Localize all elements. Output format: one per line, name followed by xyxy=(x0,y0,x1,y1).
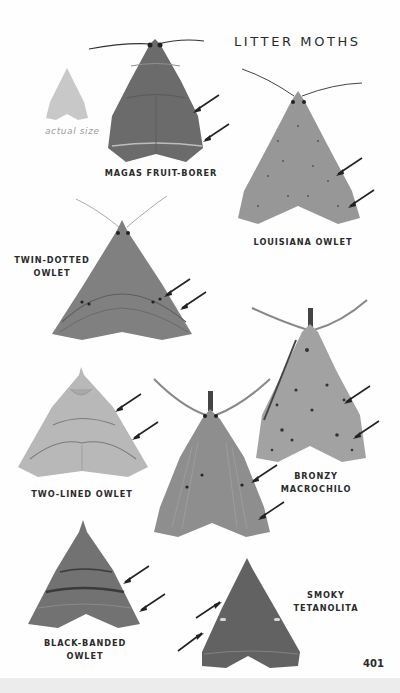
arrow-icon xyxy=(178,290,208,312)
species-label: MAGAS FRUIT-BORER xyxy=(103,167,219,180)
arrow-icon xyxy=(249,463,279,485)
actual-size-silhouette xyxy=(44,66,90,122)
arrow-icon xyxy=(121,564,151,586)
page-number: 401 xyxy=(363,658,384,669)
moth-macrochilo-center xyxy=(152,377,272,539)
arrow-icon xyxy=(194,600,224,622)
field-guide-page: LITTER MOTHS actual size MAGAS FRUIT-BOR… xyxy=(0,0,400,693)
arrow-icon xyxy=(137,592,167,614)
species-label: BLACK-BANDED OWLET xyxy=(40,637,130,663)
species-label: BRONZY MACROCHILO xyxy=(276,470,356,496)
arrow-icon xyxy=(113,392,143,414)
arrow-icon xyxy=(256,500,286,522)
arrow-icon xyxy=(342,384,372,406)
species-label: SMOKY TETANOLITA xyxy=(288,589,364,615)
arrow-icon xyxy=(351,419,381,441)
species-label: LOUISIANA OWLET xyxy=(248,236,358,249)
species-label: TWIN-DOTTED OWLET xyxy=(12,254,92,280)
arrow-icon xyxy=(346,188,376,210)
species-label: TWO-LINED OWLET xyxy=(26,488,138,501)
moth-silhouette-icon xyxy=(44,66,90,122)
arrow-icon xyxy=(201,122,231,144)
arrow-icon xyxy=(334,156,364,178)
arrow-icon xyxy=(191,93,221,115)
page-edge xyxy=(0,678,400,693)
arrow-icon xyxy=(176,631,206,653)
page-title: LITTER MOTHS xyxy=(234,34,361,49)
